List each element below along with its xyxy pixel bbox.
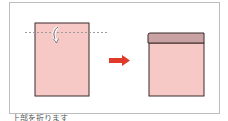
folding-diagram [0, 0, 228, 121]
right-arrow-icon [109, 55, 130, 66]
diagram-caption: 上部を折ります [12, 115, 68, 121]
sheet-after-fold [149, 43, 204, 96]
folded-flap [148, 33, 204, 43]
sheet-before-fold [35, 23, 89, 96]
